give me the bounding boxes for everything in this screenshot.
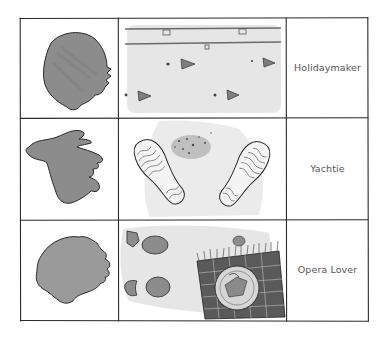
head-silhouette-round-icon (21, 19, 117, 117)
row-label-holidaymaker: Holidaymaker (287, 62, 368, 73)
head-silhouette-windswept-icon (21, 119, 117, 219)
boat-shoe-soles-scene (119, 119, 285, 219)
head-silhouette-curly-icon (21, 221, 117, 319)
footprints-picnic-scene (119, 221, 286, 320)
row-label-opera-lover: Opera Lover (287, 264, 368, 275)
beach-towels-scene (119, 19, 285, 117)
row-label-yachtie: Yachtie (287, 163, 368, 174)
